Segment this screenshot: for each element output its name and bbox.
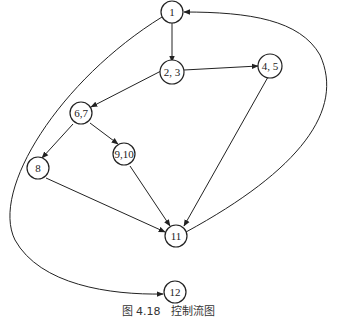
- node-label: 9,10: [114, 148, 134, 160]
- edge-23-to-67: [91, 71, 161, 107]
- node-label: 8: [35, 162, 41, 174]
- node-label: 1: [169, 6, 175, 18]
- edge-23-to-45: [184, 66, 258, 70]
- node-6-7: 6,7: [70, 102, 92, 124]
- node-2-3: 2, 3: [160, 60, 184, 84]
- edge-11-to-1: [184, 12, 327, 232]
- node-label: 6,7: [74, 107, 88, 119]
- edge-45-to-11: [184, 77, 268, 226]
- node-9-10: 9,10: [113, 143, 135, 165]
- node-label: 2, 3: [164, 66, 181, 78]
- edge-67-to-8: [42, 124, 73, 158]
- node-8: 8: [27, 157, 49, 179]
- edge-1-to-12: [10, 17, 163, 294]
- node-4-5: 4, 5: [258, 54, 282, 78]
- edge-8-to-11: [46, 178, 165, 232]
- node-label: 11: [171, 230, 182, 242]
- figure-caption: 图 4.18 控制流图: [0, 302, 337, 318]
- node-12: 12: [164, 281, 186, 303]
- node-label: 12: [170, 286, 181, 298]
- edge-910-to-11: [130, 166, 170, 226]
- node-label: 4, 5: [262, 60, 279, 72]
- node-11: 11: [165, 225, 187, 247]
- edge-67-to-910: [90, 123, 118, 144]
- node-1: 1: [161, 1, 183, 23]
